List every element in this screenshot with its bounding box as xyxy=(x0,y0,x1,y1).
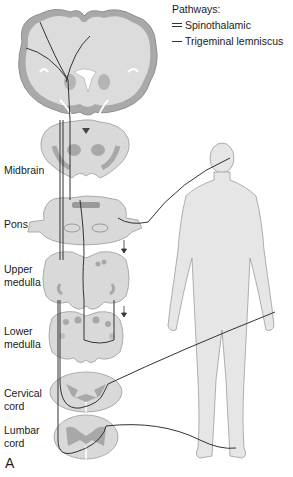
level-label-line: Lower xyxy=(4,325,41,338)
level-label-lower-medulla: Lower medulla xyxy=(4,325,41,350)
sensory-pathway-diagram xyxy=(0,0,293,477)
legend-item-trigeminal-lemniscus: Trigeminal lemniscus xyxy=(172,33,283,49)
human-body-figure xyxy=(168,143,274,458)
level-label-line: Midbrain xyxy=(4,164,44,177)
level-label-line: Upper xyxy=(4,263,41,276)
legend-title: Pathways: xyxy=(172,1,283,17)
level-label-pons: Pons xyxy=(4,218,28,231)
pons-section xyxy=(28,196,142,245)
level-label-line: medulla xyxy=(4,276,41,289)
level-label-line: cord xyxy=(4,437,40,450)
legend: Pathways: Spinothalamic Trigeminal lemni… xyxy=(172,1,283,49)
midbrain-section xyxy=(41,120,129,178)
legend-label: Trigeminal lemniscus xyxy=(185,33,283,49)
coronal-brain-section xyxy=(19,9,158,118)
level-label-line: cord xyxy=(4,400,42,413)
level-label-lumbar-cord: Lumbar cord xyxy=(4,424,40,449)
level-label-line: medulla xyxy=(4,338,41,351)
level-label-cervical-cord: Cervical cord xyxy=(4,387,42,412)
level-label-line: Pons xyxy=(4,218,28,231)
upper-medulla-section xyxy=(43,252,129,310)
legend-label: Spinothalamic xyxy=(185,17,251,33)
double-line-icon xyxy=(172,23,182,27)
level-label-line: Lumbar xyxy=(4,424,40,437)
level-label-line: Cervical xyxy=(4,387,42,400)
single-line-icon xyxy=(172,41,182,42)
legend-item-spinothalamic: Spinothalamic xyxy=(172,17,283,33)
level-label-upper-medulla: Upper medulla xyxy=(4,263,41,288)
level-label-midbrain: Midbrain xyxy=(4,164,44,177)
panel-letter: A xyxy=(5,455,14,471)
